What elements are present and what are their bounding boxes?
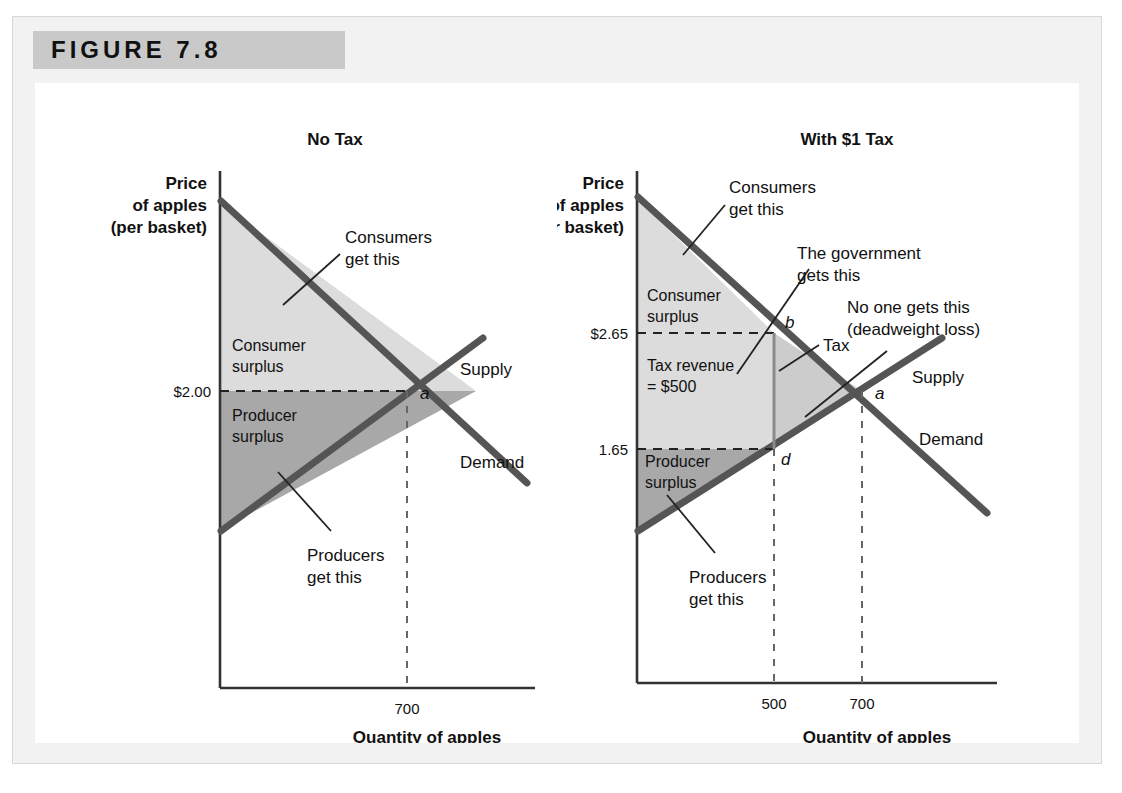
government-gets-this-annotation-line2: gets this [797,266,860,285]
x-axis-title-line1: Quantity of apples [353,728,501,743]
y-tick-label-165: 1.65 [599,441,628,458]
producer-surplus-label-line2: surplus [232,428,284,445]
panel-title-with-tax: With $1 Tax [800,130,894,149]
y-axis-title-line3: (per basket) [557,218,624,237]
y-tick-label-265: $2.65 [590,325,628,342]
deadweight-loss-annotation-line1: No one gets this [847,298,970,317]
figure-banner: FIGURE 7.8 [33,31,345,69]
y-axis-title-line1: Price [582,174,624,193]
government-gets-this-annotation-line1: The government [797,244,921,263]
point-d: d [781,450,791,469]
y-axis-title-line1: Price [165,174,207,193]
x-tick-label-700: 700 [849,695,874,712]
producer-surplus-label-line2: surplus [645,474,697,491]
producer-surplus-label-line1: Producer [645,453,711,470]
chart-panel-with-tax: With $1 Tax b [557,83,1079,743]
consumer-surplus-label-line1: Consumer [647,287,721,304]
producers-get-this-annotation-line1: Producers [307,546,384,565]
y-tick-label-200: $2.00 [173,383,211,400]
tax-annotation: Tax [823,336,850,355]
consumers-get-this-annotation-line2: get this [729,200,784,219]
consumer-surplus-label-line2: surplus [232,358,284,375]
point-b: b [785,313,794,332]
figure-body: No Tax a Price of apples (per basket) [35,83,1079,743]
x-axis-title-line1: Quantity of apples [803,728,951,743]
producers-get-this-annotation-line2: get this [689,590,744,609]
figure-frame: FIGURE 7.8 No Tax a [12,16,1102,764]
consumers-get-this-leader [683,205,725,255]
supply-label: Supply [460,360,512,379]
chart-panel-no-tax: No Tax a Price of apples (per basket) [35,83,557,743]
tax-revenue-label-line2: = $500 [647,378,696,395]
equilibrium-point-a: a [875,384,884,403]
producer-surplus-label-line1: Producer [232,407,298,424]
y-axis-title-line2: of apples [557,196,624,215]
consumers-get-this-annotation-line1: Consumers [345,228,432,247]
consumers-get-this-annotation-line1: Consumers [729,178,816,197]
equilibrium-point-a: a [420,384,429,403]
demand-label: Demand [460,453,524,472]
deadweight-loss-annotation-line2: (deadweight loss) [847,320,980,339]
figure-number-label: FIGURE 7.8 [33,36,222,64]
demand-label: Demand [919,430,983,449]
x-tick-label-500: 500 [761,695,786,712]
x-tick-label-700: 700 [394,700,419,717]
supply-label: Supply [912,368,964,387]
producers-get-this-leader [667,495,715,553]
producers-get-this-annotation-line1: Producers [689,568,766,587]
consumers-get-this-annotation-line2: get this [345,250,400,269]
consumer-surplus-label-line1: Consumer [232,337,306,354]
producers-get-this-annotation-line2: get this [307,568,362,587]
tax-revenue-label-line1: Tax revenue [647,357,734,374]
y-axis-title-line3: (per basket) [111,218,207,237]
panel-title-no-tax: No Tax [307,130,363,149]
y-axis-title-line2: of apples [132,196,207,215]
consumer-surplus-label-line2: surplus [647,308,699,325]
